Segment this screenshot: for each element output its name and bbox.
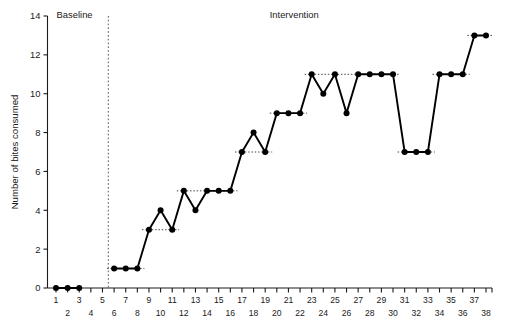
data-point <box>320 91 326 97</box>
data-point <box>134 266 140 272</box>
x-tick-label: 21 <box>284 295 294 305</box>
x-tick-label: 38 <box>481 308 491 318</box>
x-tick-label: 12 <box>179 308 189 318</box>
x-tick-label: 1 <box>54 295 59 305</box>
x-tick-label: 23 <box>307 295 317 305</box>
chart-background <box>0 0 510 327</box>
data-point <box>448 71 454 77</box>
bites-consumed-line-chart: 0246810121412345678910111213141516171819… <box>0 0 510 327</box>
data-point <box>204 188 210 194</box>
y-axis-title: Number of bites consumed <box>9 95 20 210</box>
x-tick-label: 26 <box>342 308 352 318</box>
x-tick-label: 34 <box>435 308 445 318</box>
data-point <box>192 207 198 213</box>
x-tick-label: 17 <box>237 295 247 305</box>
x-tick-label: 25 <box>330 295 340 305</box>
data-point <box>285 110 291 116</box>
data-point <box>355 71 361 77</box>
x-tick-label: 24 <box>319 308 329 318</box>
data-point <box>437 71 443 77</box>
x-tick-label: 4 <box>88 308 93 318</box>
x-tick-label: 10 <box>156 308 166 318</box>
x-tick-label: 29 <box>377 295 387 305</box>
x-tick-label: 30 <box>388 308 398 318</box>
x-tick-label: 37 <box>470 295 480 305</box>
x-tick-label: 11 <box>168 295 177 305</box>
data-point <box>239 149 245 155</box>
x-tick-label: 8 <box>135 308 140 318</box>
data-point <box>274 110 280 116</box>
data-point <box>425 149 431 155</box>
x-tick-label: 5 <box>100 295 105 305</box>
data-point <box>123 266 129 272</box>
data-point <box>216 188 222 194</box>
data-point <box>483 32 489 38</box>
data-point <box>158 207 164 213</box>
y-tick-label: 0 <box>35 282 40 293</box>
x-tick-label: 15 <box>214 295 224 305</box>
data-point <box>181 188 187 194</box>
phase-label: Baseline <box>57 9 93 20</box>
x-tick-label: 31 <box>400 295 410 305</box>
x-tick-label: 18 <box>249 308 259 318</box>
data-point <box>413 149 419 155</box>
data-point <box>76 285 82 291</box>
data-point <box>297 110 303 116</box>
x-tick-label: 33 <box>423 295 433 305</box>
y-tick-label: 10 <box>30 88 40 99</box>
data-point <box>471 32 477 38</box>
data-point <box>111 266 117 272</box>
x-tick-label: 36 <box>458 308 468 318</box>
data-point <box>169 227 175 233</box>
x-tick-label: 27 <box>353 295 363 305</box>
data-point <box>53 285 59 291</box>
x-tick-label: 16 <box>226 308 236 318</box>
x-tick-label: 2 <box>65 308 70 318</box>
data-point <box>251 130 257 136</box>
data-point <box>332 71 338 77</box>
chart-container: 0246810121412345678910111213141516171819… <box>0 0 510 327</box>
data-point <box>367 71 373 77</box>
y-tick-label: 14 <box>30 10 40 21</box>
x-tick-label: 32 <box>411 308 421 318</box>
x-tick-label: 6 <box>112 308 117 318</box>
data-point <box>262 149 268 155</box>
data-point <box>460 71 466 77</box>
y-tick-label: 6 <box>35 166 40 177</box>
data-point <box>344 110 350 116</box>
phase-label: Intervention <box>270 9 319 20</box>
data-point <box>146 227 152 233</box>
x-tick-label: 19 <box>260 295 270 305</box>
x-tick-label: 35 <box>446 295 456 305</box>
y-tick-label: 8 <box>35 127 40 138</box>
x-tick-label: 14 <box>202 308 212 318</box>
data-point <box>65 285 71 291</box>
data-point <box>227 188 233 194</box>
data-point <box>402 149 408 155</box>
y-tick-label: 2 <box>35 244 40 255</box>
x-tick-label: 13 <box>191 295 201 305</box>
data-point <box>378 71 384 77</box>
x-tick-label: 9 <box>147 295 152 305</box>
x-tick-label: 3 <box>77 295 82 305</box>
data-point <box>309 71 315 77</box>
x-tick-label: 7 <box>123 295 128 305</box>
y-tick-label: 4 <box>35 205 40 216</box>
data-point <box>390 71 396 77</box>
y-tick-label: 12 <box>30 49 40 60</box>
x-tick-label: 20 <box>272 308 282 318</box>
x-tick-label: 28 <box>365 308 375 318</box>
x-tick-label: 22 <box>295 308 305 318</box>
